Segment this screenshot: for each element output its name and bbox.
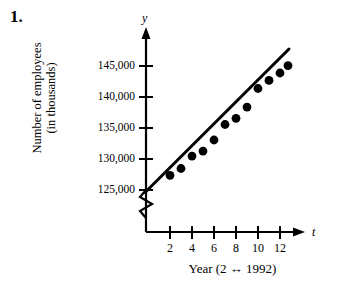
- x-axis-arrowhead: [293, 228, 305, 237]
- data-point: [177, 164, 186, 173]
- x-tick-label-6: 6: [211, 241, 217, 255]
- x-tick-label-8: 8: [233, 241, 239, 255]
- trendline: [145, 49, 289, 193]
- data-point: [210, 136, 219, 145]
- x-tick-label-4: 4: [189, 241, 195, 255]
- x-tick-label-12: 12: [274, 241, 286, 255]
- y-axis-arrowhead: [142, 27, 151, 39]
- data-point: [254, 84, 263, 93]
- data-points: [166, 61, 293, 180]
- y-axis-title: Number of employees (in thousands): [24, 18, 64, 178]
- x-axis-title: Year (2 ↔ 1992): [150, 261, 315, 277]
- data-point: [276, 69, 285, 78]
- y-tick-label-145000: 145,000: [98, 59, 136, 72]
- y-tick-label-130000: 130,000: [98, 152, 136, 165]
- x-tick-label-2: 2: [167, 241, 173, 255]
- y-tick-label-135000: 135,000: [98, 121, 136, 134]
- y-axis-variable-label: y: [141, 11, 148, 25]
- data-point: [221, 120, 230, 129]
- x-tick-labels: 2 4 6 8 10 12: [167, 241, 286, 255]
- data-point: [199, 147, 208, 156]
- y-tick-label-140000: 140,000: [98, 90, 136, 103]
- y-axis-title-line-2: (in thousands): [44, 62, 58, 133]
- data-point: [232, 114, 241, 123]
- y-tick-labels: 145,000 140,000 135,000 130,000 125,000: [98, 59, 136, 196]
- y-axis-title-line-1: Number of employees: [30, 42, 44, 153]
- x-axis-variable-label: t: [312, 225, 316, 239]
- x-tick-label-10: 10: [252, 241, 264, 255]
- data-point: [243, 103, 252, 112]
- data-point: [265, 76, 274, 85]
- data-point: [166, 171, 175, 180]
- data-point: [188, 152, 197, 161]
- y-tick-label-125000: 125,000: [98, 183, 136, 196]
- data-point: [284, 61, 293, 70]
- figure-root: 1. 145,000 140,000 135,000 130,000: [0, 0, 338, 294]
